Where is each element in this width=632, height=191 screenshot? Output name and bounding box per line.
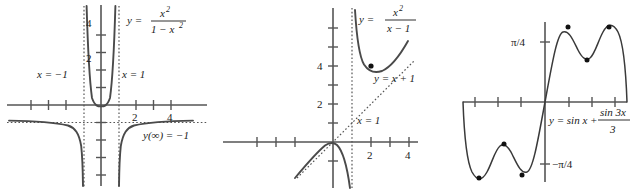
minimum-point-marker [368,63,373,68]
curve-branch-lower [295,143,350,188]
function-label-lhs: y = [358,13,374,25]
plot-panel-rational-2: 2 4 4 2 x = 1 y = x + 1 y = x 2 x − 1 [211,0,422,191]
function-label-3: y = sin x + sin 3x 3 [548,106,630,135]
xtick-label-2: 2 [132,111,138,123]
function-label-numerator: sin 3x [600,106,626,118]
extremum-dot-2 [502,142,507,147]
plot-panel-rational-1: 2 4 4 2 x = −1 x = 1 y(∞) = −1 y = x 2 1… [0,0,211,191]
xtick-label-4: 4 [405,149,411,161]
ytick-label-2: 2 [86,52,92,64]
plot-svg-1: 2 4 4 2 x = −1 x = 1 y(∞) = −1 y = x 2 1… [0,0,211,191]
ytick-label-4: 4 [317,60,323,72]
xtick-label-4: 4 [167,111,173,123]
function-label-denominator: 3 [609,123,616,135]
ytick-label-pi-over-4: π/4 [511,36,526,48]
function-label-lhs: y = sin x + [548,114,597,126]
function-label-1: y = x 2 1 − x 2 [126,5,186,35]
function-label-numerator-exponent: 2 [399,4,403,13]
function-label-numerator: x [392,6,398,18]
ytick-label-2: 2 [317,98,323,110]
plot-panel-trig-3: π/4 −π/4 y = sin x + sin 3x 3 [422,0,632,191]
function-label-2: y = x 2 x − 1 [358,4,416,34]
function-label-denominator-exponent: 2 [179,21,183,30]
annotation-y-infinity: y(∞) = −1 [142,129,189,142]
annotation-x-eq-1: x = 1 [356,114,380,126]
ytick-label-neg-pi-over-4: −π/4 [552,158,573,170]
curve-branch-left [9,121,83,186]
function-label-numerator-exponent: 2 [166,5,170,14]
figure-row: 2 4 4 2 x = −1 x = 1 y(∞) = −1 y = x 2 1… [0,0,632,191]
function-label-numerator: x [159,7,165,19]
extremum-dot-3 [520,173,525,178]
function-label-denominator: x − 1 [386,22,410,34]
function-label-lhs: y = [126,14,142,26]
extremum-dot-6 [607,25,612,30]
extremum-dot-4 [566,25,571,30]
ytick-label-4: 4 [86,17,92,29]
annotation-x-eq-neg1: x = −1 [36,68,68,80]
plot-svg-3: π/4 −π/4 y = sin x + sin 3x 3 [422,0,632,191]
function-label-denominator: 1 − x [151,23,174,35]
plot-svg-2: 2 4 4 2 x = 1 y = x + 1 y = x 2 x − 1 [211,0,422,191]
xtick-label-2: 2 [367,149,373,161]
extremum-dot-1 [477,176,482,181]
extremum-dot-5 [585,58,590,63]
annotation-x-eq-1: x = 1 [121,68,145,80]
annotation-oblique-asymptote: y = x + 1 [373,72,415,84]
